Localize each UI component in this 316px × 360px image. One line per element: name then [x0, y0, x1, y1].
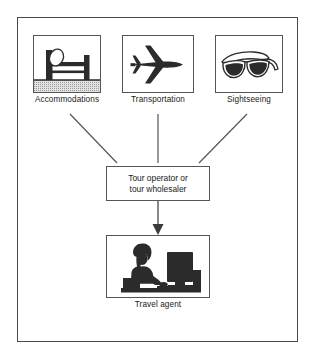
sightseeing-label: Sightseeing [215, 95, 283, 105]
transportation-label: Transportation [122, 95, 194, 105]
sunglasses-icon [216, 36, 283, 93]
accommodations-icon-box [33, 35, 101, 93]
bed-icon [34, 36, 101, 93]
travel-agent-icon-box [106, 235, 210, 298]
transportation-icon-box [122, 35, 194, 93]
tour-operator-line-1: Tour operator or [128, 173, 188, 184]
accommodations-label: Accommodations [33, 95, 101, 105]
travel-agent-label: Travel agent [106, 300, 210, 310]
tour-operator-line-2: tour wholesaler [130, 184, 187, 195]
node-tour-operator: Tour operator or tour wholesaler [106, 166, 210, 201]
airplane-icon [123, 36, 194, 93]
person-at-computer-icon [107, 236, 210, 298]
sightseeing-icon-box [215, 35, 283, 93]
diagram-canvas: Accommodations Transportation [0, 0, 316, 360]
